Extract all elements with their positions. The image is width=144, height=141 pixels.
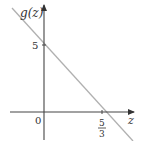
origin-label: 0: [35, 115, 41, 126]
chart-canvas: g(z) 5 0 5 3 z: [0, 0, 144, 141]
line-g: [12, 8, 133, 141]
x-tick-label-den: 3: [99, 129, 105, 139]
x-axis-label: z: [127, 114, 134, 127]
x-tick-label-num: 5: [99, 118, 105, 128]
y-tick-label-5: 5: [32, 40, 38, 51]
y-axis-label: g(z): [20, 6, 44, 20]
